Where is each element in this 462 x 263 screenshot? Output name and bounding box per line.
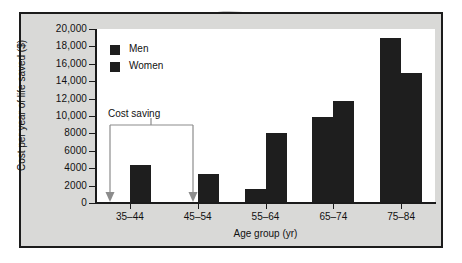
y-axis-tick (89, 29, 95, 30)
bar-75-84-men (380, 38, 401, 203)
bar-65-74-women (333, 101, 354, 203)
y-axis-label: 0 (21, 198, 87, 208)
y-axis-label: 10,000 (21, 111, 87, 121)
y-axis-tick (89, 81, 95, 82)
x-axis-tick (130, 204, 131, 209)
y-axis-tick (89, 186, 95, 187)
y-axis-tick (89, 46, 95, 47)
y-axis-title: Cost per year of life saved ($) (16, 26, 27, 186)
x-axis-tick (401, 204, 402, 209)
bar-65-74-men (312, 117, 333, 203)
y-axis-tick (89, 64, 95, 65)
y-axis-label: 20,000 (21, 24, 87, 34)
bar-55-64-men (245, 189, 266, 203)
legend-swatch-men (110, 45, 120, 55)
x-axis-label: 35–44 (95, 211, 165, 222)
y-axis-tick (89, 116, 95, 117)
x-axis-tick (198, 204, 199, 209)
x-axis-label: 75–84 (366, 211, 436, 222)
y-axis-label: 14,000 (21, 76, 87, 86)
legend-label-women: Women (129, 60, 163, 71)
y-axis-tick (89, 203, 95, 204)
cost-saving-bracket-icon (96, 118, 226, 204)
y-axis-tick (89, 133, 95, 134)
y-axis-label: 8000 (21, 128, 87, 138)
y-axis-label: 6000 (21, 146, 87, 156)
y-axis-label: 4000 (21, 163, 87, 173)
y-axis-tick (89, 168, 95, 169)
x-axis-tick (266, 204, 267, 209)
x-axis-label: 65–74 (298, 211, 368, 222)
chart-figure: Men Women 0200040006000800010,00012,0001… (0, 0, 462, 263)
y-axis-tick (89, 99, 95, 100)
legend-label-men: Men (129, 43, 148, 54)
x-axis-label: 45–54 (163, 211, 233, 222)
y-axis-label: 2000 (21, 181, 87, 191)
y-axis-tick (89, 151, 95, 152)
x-axis-tick (333, 204, 334, 209)
legend-swatch-women (110, 62, 120, 72)
bar-75-84-women (401, 73, 422, 203)
bar-55-64-women (266, 133, 287, 203)
x-axis-title: Age group (yr) (96, 228, 435, 239)
y-axis-label: 16,000 (21, 59, 87, 69)
y-axis-label: 18,000 (21, 41, 87, 51)
x-axis-label: 55–64 (231, 211, 301, 222)
y-axis-label: 12,000 (21, 94, 87, 104)
